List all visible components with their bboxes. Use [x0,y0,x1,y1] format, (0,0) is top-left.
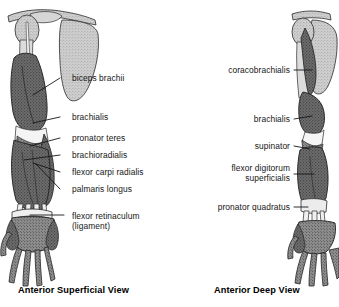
label-brachialis-deep: brachialis [254,114,290,124]
label-pronator-teres: pronator teres [72,133,125,143]
label-flexor-digitorum-superficialis: flexor digitorum superficialis [231,163,290,183]
brachialis-muscle-deep [299,92,325,136]
label-flexor-carpi-radialis: flexor carpi radialis [72,167,144,177]
flexor-digitorum-superficialis-muscle [298,147,329,207]
biceps-brachii-muscle [11,53,47,132]
label-supinator: supinator [255,141,290,151]
left-arm-superficial-illustration [1,10,99,286]
anatomy-figure: biceps brachiibrachialispronator teresbr… [0,0,339,307]
forearm-flexor-mass [12,140,51,211]
label-brachioradialis: brachioradialis [72,150,127,160]
label-palmaris-longus: palmaris longus [72,184,132,194]
label-brachialis: brachialis [72,112,108,122]
anatomy-illustration-canvas [0,0,339,307]
label-biceps-brachii: biceps brachii [72,73,124,83]
label-pronator-quadratus: pronator quadratus [218,202,290,212]
right-arm-deep-illustration [288,11,339,286]
scapula-shape [59,20,98,101]
caption-anterior-deep: Anterior Deep View [214,285,300,295]
label-coracobrachialis: coracobrachialis [228,65,290,75]
label-flexor-retinaculum: flexor retinaculum (ligament) [72,211,140,231]
clavicle-shape-deep [292,11,331,20]
caption-anterior-superficial: Anterior Superficial View [18,285,129,295]
